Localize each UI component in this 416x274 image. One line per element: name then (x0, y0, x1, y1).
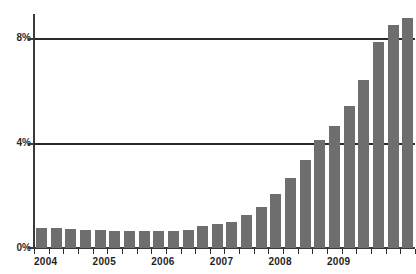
x-tick-mark (93, 249, 94, 254)
x-tick-mark (312, 249, 313, 254)
x-tick-mark (283, 249, 284, 254)
bar (285, 178, 296, 248)
bar (109, 231, 120, 248)
x-tick-mark (386, 249, 387, 254)
x-tick-mark (195, 249, 196, 254)
bar (388, 25, 399, 248)
x-tick-mark (107, 249, 108, 254)
plot-area (34, 14, 415, 248)
bar (344, 106, 355, 248)
x-tick-mark (239, 249, 240, 254)
x-tick-mark (268, 249, 269, 254)
bar (314, 140, 325, 248)
x-tick-mark (254, 249, 255, 254)
bar (256, 207, 267, 248)
bar (153, 231, 164, 248)
x-axis-ticks (34, 249, 415, 255)
bar (373, 42, 384, 248)
bar (80, 230, 91, 248)
bar (402, 18, 413, 248)
x-tick-mark (210, 249, 211, 254)
x-tick-mark (400, 249, 401, 254)
bar (65, 229, 76, 248)
x-tick-mark (181, 249, 182, 254)
x-axis-label-2005: 2005 (93, 256, 116, 267)
x-tick-mark (224, 249, 225, 254)
x-tick-mark (166, 249, 167, 254)
x-tick-mark (327, 249, 328, 254)
bar (358, 80, 369, 248)
x-tick-mark (34, 249, 35, 254)
bar (183, 230, 194, 248)
bar (212, 224, 223, 248)
bar (226, 222, 237, 248)
x-axis-label-2004: 2004 (34, 256, 57, 267)
x-tick-mark (371, 249, 372, 254)
x-axis-labels: 200420052006200720082009 (0, 256, 415, 272)
bars-group (34, 14, 415, 248)
x-tick-mark (137, 249, 138, 254)
x-tick-mark (151, 249, 152, 254)
bar (36, 228, 47, 248)
bar (329, 126, 340, 248)
x-axis-label-2007: 2007 (210, 256, 233, 267)
x-tick-mark (298, 249, 299, 254)
bar (300, 160, 311, 248)
chart-title (120, 0, 410, 5)
bar (270, 194, 281, 248)
bar (197, 226, 208, 248)
bar (124, 231, 135, 248)
x-tick-mark (63, 249, 64, 254)
x-tick-mark (49, 249, 50, 254)
bar (168, 231, 179, 248)
x-axis-label-2006: 2006 (151, 256, 174, 267)
x-tick-mark (122, 249, 123, 254)
bar (95, 230, 106, 248)
bar (139, 231, 150, 248)
x-tick-mark (356, 249, 357, 254)
x-axis-label-2009: 2009 (327, 256, 350, 267)
x-tick-mark (78, 249, 79, 254)
bar (51, 228, 62, 248)
x-tick-mark (342, 249, 343, 254)
bar (241, 215, 252, 248)
y-axis-labels: 8% 4% 0% (0, 0, 31, 274)
x-axis-label-2008: 2008 (268, 256, 291, 267)
